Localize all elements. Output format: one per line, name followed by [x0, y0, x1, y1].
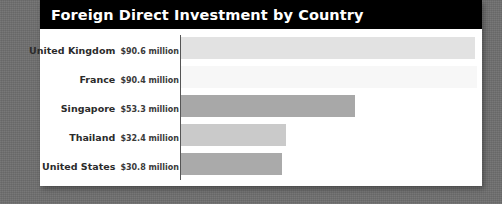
bar-label: Singapore $53.3 million [61, 97, 179, 116]
chart-row: Thailand $32.4 million [40, 124, 482, 146]
chart-row: United States $30.8 million [40, 153, 482, 175]
bar-singapore[interactable] [181, 95, 355, 117]
bar-thailand[interactable] [181, 124, 286, 146]
bar-united-states[interactable] [181, 153, 282, 175]
chart-row: Singapore $53.3 million [40, 95, 482, 117]
bar-united-kingdom[interactable] [181, 37, 475, 59]
bar-category-label: Singapore [61, 103, 116, 114]
bar-france[interactable] [181, 66, 477, 88]
chart-plot-area: United Kingdom $90.6 million France $90.… [40, 29, 482, 186]
bar-value-label: $90.4 million [120, 76, 179, 85]
chart-title-bar: Foreign Direct Investment by Country [40, 0, 482, 29]
page-title: Foreign Direct Investment by Country [51, 7, 364, 23]
chart-row: France $90.4 million [40, 66, 482, 88]
bar-value-label: $32.4 million [120, 134, 179, 143]
bar-category-label: United States [42, 161, 115, 172]
bar-label: Thailand $32.4 million [69, 126, 179, 145]
bar-value-label: $53.3 million [120, 105, 179, 114]
bar-value-label: $30.8 million [120, 163, 179, 172]
bar-category-label: France [79, 74, 115, 85]
bar-category-label: Thailand [69, 132, 115, 143]
bar-category-label: United Kingdom [29, 45, 115, 56]
chart-row: United Kingdom $90.6 million [40, 37, 482, 59]
chart-card: Foreign Direct Investment by Country Uni… [40, 0, 482, 186]
bar-label: France $90.4 million [79, 68, 179, 87]
bar-label: United States $30.8 million [42, 155, 179, 174]
bar-label: United Kingdom $90.6 million [29, 39, 179, 58]
bar-value-label: $90.6 million [120, 47, 179, 56]
